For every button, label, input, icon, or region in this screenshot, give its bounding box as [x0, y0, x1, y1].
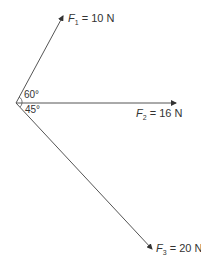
force-diagram: F1 = 10 N F2 = 16 N F3 = 20 N 60° 45° — [0, 0, 201, 267]
angle-45-label: 45° — [25, 104, 40, 115]
angle-arc-60 — [19, 97, 22, 103]
f1-label: F1 = 10 N — [68, 12, 114, 26]
f3-vector — [16, 103, 152, 249]
f2-label: F2 = 16 N — [136, 107, 182, 121]
angle-arc-45 — [20, 103, 22, 107]
vector-lines — [0, 0, 201, 267]
f3-label: F3 = 20 N — [156, 242, 201, 256]
angle-60-label: 60° — [24, 89, 39, 100]
